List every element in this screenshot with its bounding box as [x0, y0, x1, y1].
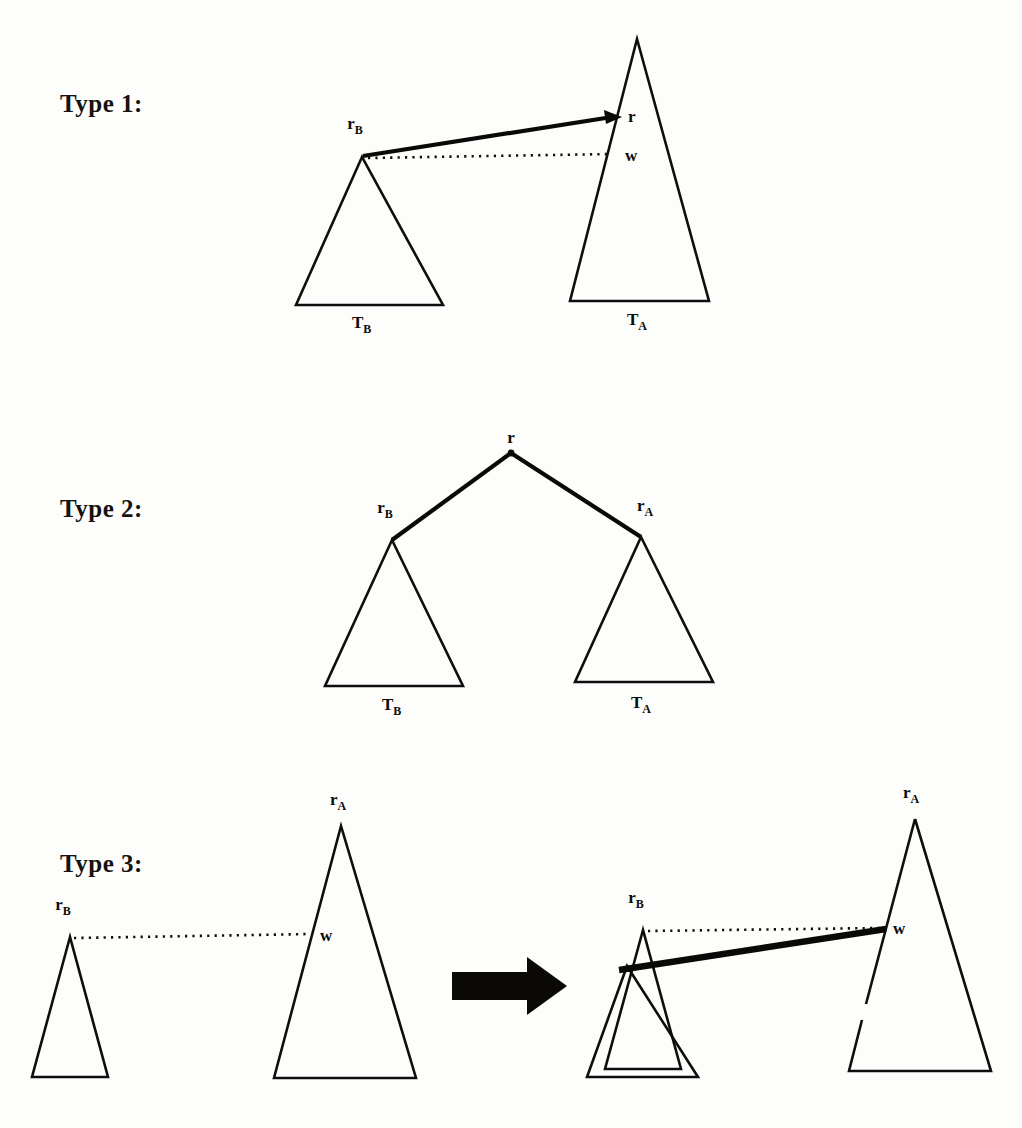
- type-3-after-triangle-rb: [605, 930, 681, 1069]
- type-3-row: Type 3: rB rA w: [32, 783, 991, 1078]
- transform-arrow-head: [527, 957, 567, 1015]
- type-2-ta-caption: TA: [631, 693, 651, 716]
- type-1-row: Type 1: TB TA rB r w: [60, 39, 709, 336]
- type-2-edge-right: [511, 453, 641, 537]
- type-3-after-bold-edge: [619, 929, 886, 970]
- type-2-node-rb: rB: [377, 498, 393, 521]
- type-1-node-rb: rB: [347, 114, 363, 137]
- type-3-after-node-ra: rA: [903, 783, 920, 806]
- type-2-edge-left: [392, 453, 511, 540]
- type-2-label: Type 2:: [60, 495, 143, 522]
- figure-root: Type 1: TB TA rB r w Type: [0, 0, 1022, 1128]
- type-3-before-dotted-edge: [74, 934, 310, 938]
- diagram-canvas: Type 1: TB TA rB r w Type: [0, 0, 1022, 1128]
- type-3-after-node-rb: rB: [628, 888, 644, 911]
- type-2-row: Type 2: TB TA r rB rA: [60, 428, 713, 718]
- type-2-root-node: [508, 450, 515, 457]
- type-2-triangle-ta: [575, 537, 713, 682]
- type-3-before-triangle-rb: [32, 937, 108, 1077]
- transform-arrow-icon: [452, 957, 567, 1015]
- type-3-after-triangle-ta: [866, 819, 915, 1004]
- type-3-before-node-w: w: [320, 926, 333, 945]
- type-1-node-r: r: [628, 107, 636, 126]
- type-3-before-node-rb: rB: [55, 895, 71, 918]
- type-2-triangle-tb: [325, 540, 463, 686]
- type-2-node-ra: rA: [637, 496, 654, 519]
- transform-arrow-shaft: [452, 972, 530, 1000]
- type-1-label: Type 1:: [60, 90, 143, 117]
- type-1-triangle-ta: [570, 39, 709, 301]
- type-3-after: rB rA w: [587, 783, 991, 1077]
- type-3-label: Type 3:: [60, 850, 143, 877]
- type-1-node-w: w: [625, 146, 638, 165]
- type-3-before-node-ra: rA: [330, 790, 347, 813]
- type-1-solid-edge: [363, 117, 612, 156]
- type-3-after-triangle-ta-lower: [849, 819, 991, 1071]
- type-1-triangle-tb: [296, 157, 443, 305]
- type-3-after-node-w: w: [893, 919, 906, 938]
- type-2-node-r: r: [507, 428, 515, 447]
- type-3-after-dotted-edge: [648, 928, 880, 931]
- type-1-dotted-edge: [368, 154, 612, 158]
- type-3-after-triangle-overlap: [587, 966, 698, 1077]
- type-1-ta-caption: TA: [627, 310, 647, 333]
- type-1-tb-caption: TB: [352, 313, 371, 336]
- type-3-before: rB rA w: [32, 790, 416, 1078]
- type-3-before-triangle-ta: [274, 826, 416, 1078]
- type-2-tb-caption: TB: [382, 695, 401, 718]
